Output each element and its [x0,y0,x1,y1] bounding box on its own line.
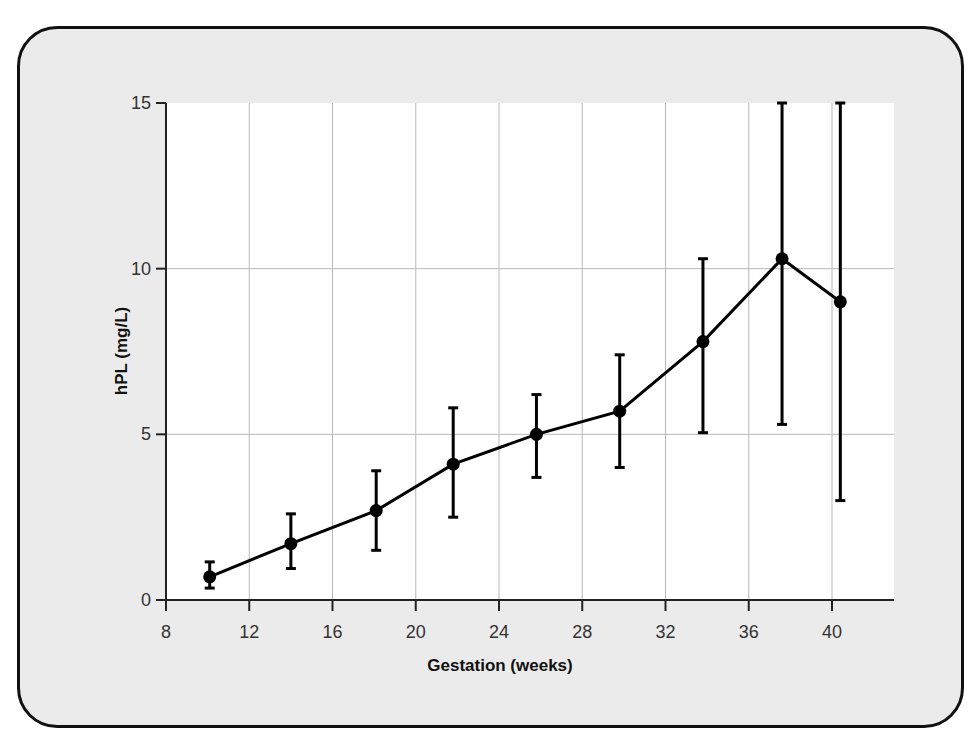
data-point [776,252,789,265]
x-tick-label: 20 [406,622,426,642]
data-point [370,504,383,517]
plot-area [166,103,894,600]
line-chart: 81216202428323640 051015 Gestation (week… [0,0,980,740]
y-axis-title: hPL (mg/L) [112,307,131,395]
x-tick-label: 12 [239,622,259,642]
x-tick-label: 40 [822,622,842,642]
y-axis-ticks: 051015 [131,93,166,610]
data-point [613,405,626,418]
x-tick-label: 8 [161,622,171,642]
x-tick-label: 36 [739,622,759,642]
x-tick-label: 24 [489,622,509,642]
data-point [284,537,297,550]
data-point [834,295,847,308]
x-tick-label: 16 [322,622,342,642]
data-point [696,335,709,348]
x-tick-label: 32 [655,622,675,642]
data-point [447,458,460,471]
y-tick-label: 0 [141,590,151,610]
x-axis-title: Gestation (weeks) [427,656,573,675]
x-axis-ticks: 81216202428323640 [161,600,842,642]
y-tick-label: 10 [131,259,151,279]
data-point [203,570,216,583]
x-tick-label: 28 [572,622,592,642]
y-tick-label: 5 [141,424,151,444]
y-tick-label: 15 [131,93,151,113]
data-point [530,428,543,441]
